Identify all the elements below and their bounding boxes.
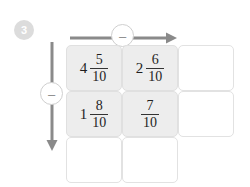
fraction: 610 [146, 53, 164, 84]
denominator: 10 [90, 69, 108, 84]
step-number-badge: 3 [14, 20, 34, 40]
fraction: 710 [141, 99, 159, 130]
denominator: 10 [141, 115, 159, 130]
mixed-number: 1810 [80, 99, 109, 130]
numerator: 6 [150, 53, 161, 68]
mixed-number: 2610 [136, 53, 165, 84]
minus-icon: – [119, 29, 126, 42]
fraction: 810 [90, 99, 108, 130]
minus-icon: – [48, 87, 55, 100]
grid-cell [178, 137, 234, 183]
grid-cell[interactable] [178, 45, 234, 91]
grid-cell: 1810 [66, 91, 122, 137]
denominator: 10 [146, 69, 164, 84]
whole-part: 1 [80, 107, 88, 122]
horizontal-operation-minus[interactable]: – [111, 24, 134, 47]
grid-cell[interactable] [122, 137, 178, 183]
numerator: 7 [145, 99, 156, 114]
denominator: 10 [90, 115, 108, 130]
vertical-operation-minus[interactable]: – [40, 82, 63, 105]
numerator: 5 [94, 53, 105, 68]
worksheet-root: 3 – – 451026101810710 [0, 0, 250, 187]
numerator: 8 [94, 99, 105, 114]
fraction-grid: 451026101810710 [66, 45, 234, 183]
grid-cell[interactable] [178, 91, 234, 137]
whole-part: 2 [136, 61, 144, 76]
whole-part: 4 [80, 61, 88, 76]
fraction: 510 [90, 53, 108, 84]
grid-cell: 710 [122, 91, 178, 137]
mixed-number: 4510 [80, 53, 109, 84]
mixed-number: 710 [141, 99, 159, 130]
grid-cell: 4510 [66, 45, 122, 91]
grid-cell: 2610 [122, 45, 178, 91]
grid-cell[interactable] [66, 137, 122, 183]
